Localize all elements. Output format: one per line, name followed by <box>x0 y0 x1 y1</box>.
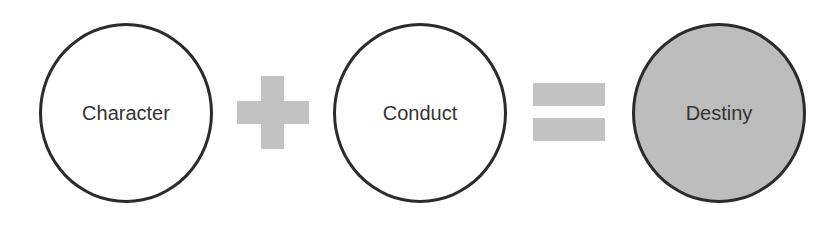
destiny-label: Destiny <box>686 102 753 125</box>
conduct-label: Conduct <box>383 102 458 125</box>
conduct-circle: Conduct <box>333 23 507 203</box>
character-circle: Character <box>39 23 213 203</box>
destiny-circle: Destiny <box>632 23 806 203</box>
character-label: Character <box>82 102 170 125</box>
